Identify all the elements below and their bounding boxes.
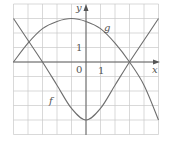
axes bbox=[13, 4, 160, 135]
y-tick-label-1: 1 bbox=[76, 42, 82, 53]
y-axis-label: y bbox=[75, 2, 82, 13]
curve-label-f: f bbox=[48, 95, 55, 106]
x-tick-label-1: 1 bbox=[98, 65, 104, 76]
origin-label: 0 bbox=[76, 64, 82, 75]
function-graph: x y 0 1 1 g f bbox=[0, 0, 171, 144]
curve-label-g: g bbox=[104, 22, 110, 33]
y-axis-arrow-icon bbox=[84, 4, 89, 11]
labels: x y 0 1 1 g f bbox=[48, 2, 158, 106]
x-axis-label: x bbox=[152, 64, 158, 75]
